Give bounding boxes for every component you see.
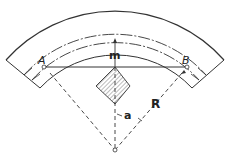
b-arrow-icon — [181, 70, 186, 74]
center-point-marker — [113, 148, 117, 152]
midordinate-arrow-icon — [113, 38, 117, 43]
label-angle: a — [124, 109, 131, 122]
label-radius: R — [151, 97, 160, 111]
label-a: A — [37, 54, 46, 67]
hatched-block — [96, 67, 130, 104]
right-tick-1 — [198, 68, 206, 75]
right-tick-2 — [191, 74, 199, 80]
left-tick-2 — [32, 74, 40, 80]
curve-diagram: A B m a R — [0, 0, 232, 160]
right-end-cap — [192, 60, 224, 88]
angle-tick-right — [138, 118, 142, 121]
label-m: m — [109, 49, 120, 62]
left-tick-1 — [24, 68, 32, 75]
label-b: B — [182, 54, 190, 67]
angle-tick-left — [117, 114, 122, 116]
